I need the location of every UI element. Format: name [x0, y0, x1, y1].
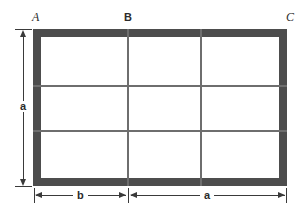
dimension-arrow-b-right: [119, 192, 126, 198]
point-label-a: A: [32, 11, 39, 23]
dimension-label-width-a: a: [200, 190, 214, 201]
point-label-c: C: [286, 11, 294, 23]
grid-line-vertical-2: [200, 29, 202, 186]
dimension-tick-bottom: [15, 186, 32, 187]
dimension-arrow-b-left: [35, 192, 42, 198]
rectangle-frame: [33, 29, 287, 186]
grid-line-horizontal-1: [33, 85, 287, 87]
point-label-b: B: [124, 12, 132, 23]
dimension-arrow-up: [20, 30, 26, 37]
dimension-tick-middle: [128, 188, 129, 203]
dimension-label-width-b: b: [73, 190, 88, 201]
grid-line-horizontal-2: [33, 130, 287, 132]
dimension-arrow-down: [20, 179, 26, 186]
geometry-figure: A B C a b a: [0, 0, 305, 218]
grid-line-vertical-1: [127, 29, 129, 186]
dimension-arrow-a-right: [278, 192, 285, 198]
dimension-label-height-a: a: [16, 101, 30, 112]
dimension-tick-right: [286, 188, 287, 203]
dimension-arrow-a-left: [130, 192, 137, 198]
